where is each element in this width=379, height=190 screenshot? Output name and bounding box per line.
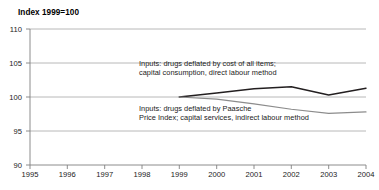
annotation-lower-line1: Inputs: drugs deflated by Paasche — [139, 104, 309, 113]
series-line-dark — [179, 87, 366, 97]
y-tick-label: 95 — [0, 127, 22, 136]
y-tick-marks — [26, 29, 30, 165]
x-tick-label: 1998 — [127, 170, 157, 179]
x-tick-label: 1995 — [15, 170, 45, 179]
y-tick-label: 110 — [0, 25, 22, 34]
x-tick-label: 2004 — [351, 170, 379, 179]
x-tick-label: 2002 — [276, 170, 306, 179]
x-tick-label: 1997 — [90, 170, 120, 179]
x-tick-marks — [30, 165, 366, 169]
x-tick-label: 2001 — [239, 170, 269, 179]
y-tick-label: 100 — [0, 93, 22, 102]
y-tick-label: 90 — [0, 161, 22, 170]
annotation-upper-line1: Inputs: drugs deflated by cost of all it… — [139, 59, 277, 68]
annotation-lower-series: Inputs: drugs deflated by Paasche Price … — [139, 104, 309, 122]
annotation-lower-line2: Price Index; capital services, indirect … — [139, 113, 309, 122]
x-tick-label: 2003 — [314, 170, 344, 179]
x-tick-label: 1996 — [52, 170, 82, 179]
y-tick-label: 105 — [0, 59, 22, 68]
annotation-upper-series: Inputs: drugs deflated by cost of all it… — [139, 59, 277, 77]
x-tick-label: 2000 — [202, 170, 232, 179]
annotation-upper-line2: capital consumption, direct labour metho… — [139, 68, 277, 77]
x-tick-label: 1999 — [164, 170, 194, 179]
